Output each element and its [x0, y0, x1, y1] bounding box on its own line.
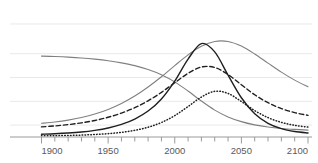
chart-container: 19001950200020502100 [0, 0, 318, 163]
x-axis-ticks [42, 137, 309, 144]
data-series-group [42, 41, 309, 136]
x-tick-label: 1950 [98, 145, 119, 156]
line-chart: 19001950200020502100 [0, 0, 318, 163]
series-line [42, 91, 309, 136]
x-tick-label: 2100 [287, 145, 308, 156]
series-line [42, 56, 309, 130]
x-tick-label: 2050 [231, 145, 252, 156]
x-tick-label: 2000 [164, 145, 185, 156]
x-axis-tick-labels: 19001950200020502100 [42, 145, 309, 156]
series-line [42, 43, 309, 134]
x-tick-label: 1900 [42, 145, 63, 156]
